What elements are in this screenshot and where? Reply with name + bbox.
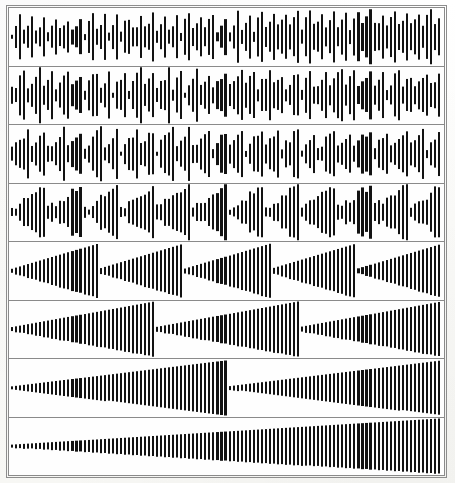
panel-7-click-target[interactable]	[9, 359, 444, 417]
waveform-panel-3[interactable]	[8, 124, 445, 183]
panel-1-click-target[interactable]	[9, 8, 444, 66]
waveform-panel-2[interactable]	[8, 66, 445, 125]
panel-3-click-target[interactable]	[9, 125, 444, 183]
waveform-panel-4[interactable]	[8, 183, 445, 242]
panel-4-click-target[interactable]	[9, 184, 444, 242]
panel-8-click-target[interactable]	[9, 418, 444, 476]
waveform-panel-8[interactable]	[8, 417, 445, 477]
panel-stack	[8, 7, 445, 476]
panel-5-click-target[interactable]	[9, 242, 444, 300]
waveform-panel-7[interactable]	[8, 358, 445, 417]
figure-root	[0, 0, 455, 483]
waveform-panel-1[interactable]	[8, 7, 445, 66]
waveform-panel-6[interactable]	[8, 300, 445, 359]
waveform-panel-5[interactable]	[8, 241, 445, 300]
panel-6-click-target[interactable]	[9, 301, 444, 359]
panel-2-click-target[interactable]	[9, 67, 444, 125]
